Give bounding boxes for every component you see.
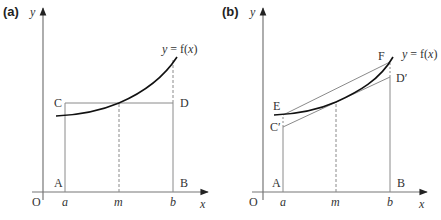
y-axis-label: y [29, 5, 36, 19]
curve-label: y = f(x) [161, 42, 197, 56]
tick-m: m [331, 195, 340, 209]
origin-label: O [249, 195, 258, 209]
curve-fx [56, 57, 177, 116]
x-axis-label: x [199, 197, 206, 211]
panel-label: (b) [222, 4, 239, 19]
point-A: A [54, 176, 63, 190]
curve-label: y = f(x) [401, 47, 437, 61]
tick-a: a [62, 195, 68, 209]
tick-b: b [387, 195, 393, 209]
point-B: B [397, 176, 405, 190]
x-axis-label: x [418, 197, 425, 211]
curve-fx [274, 57, 393, 115]
point-E: E [273, 99, 280, 113]
panel-a: (a) y y = f(x) C D A B O a m b x [3, 4, 208, 211]
point-D-prime: D′ [396, 71, 408, 85]
tick-m: m [114, 195, 123, 209]
point-C: C [54, 96, 62, 110]
panel-b: (b) y y = f(x) F D′ E C′ A B O a m b x [222, 4, 437, 211]
point-B: B [180, 176, 188, 190]
diagram-canvas: (a) y y = f(x) C D A B O a m b x (b) y [0, 0, 441, 220]
chord-EF [283, 62, 390, 115]
point-F: F [378, 49, 385, 63]
tick-b: b [170, 195, 176, 209]
origin-label: O [32, 195, 41, 209]
point-C-prime: C′ [270, 120, 281, 134]
panel-label: (a) [3, 4, 19, 19]
point-A: A [272, 176, 281, 190]
tick-a: a [280, 195, 286, 209]
y-axis-label: y [249, 5, 256, 19]
point-D: D [180, 96, 189, 110]
